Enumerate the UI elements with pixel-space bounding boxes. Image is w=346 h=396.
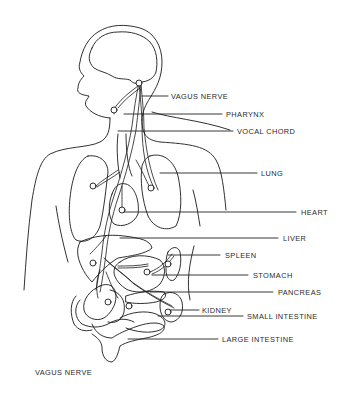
- label-heart: HEART: [301, 209, 328, 216]
- brain-outline: [89, 32, 157, 83]
- arm-inner-left: [56, 206, 68, 262]
- body-outline-right: [142, 120, 226, 210]
- colon-ascending: [71, 296, 92, 331]
- vagus-nerve-diagram: [0, 0, 346, 396]
- trachea: [117, 134, 120, 178]
- shoulder-line-right: [152, 112, 230, 130]
- label-pancreas: PANCREAS: [278, 289, 321, 296]
- label-stomach: STOMACH: [253, 272, 293, 279]
- label-lung: LUNG: [261, 170, 283, 177]
- label-large-intestine: LARGE INTESTINE: [222, 336, 294, 343]
- label-small-intestine: SMALL INTESTINE: [247, 313, 318, 320]
- heart-organ: [109, 184, 138, 226]
- kidney-organ: [160, 292, 183, 322]
- small-intestine-loop-3: [76, 300, 134, 327]
- label-kidney: KIDNEY: [202, 307, 232, 314]
- label-vocal-chord: VOCAL CHORD: [237, 128, 295, 135]
- lung-left: [69, 156, 108, 242]
- label-pharynx: PHARYNX: [226, 111, 264, 118]
- arm-inner-right: [193, 190, 200, 226]
- pancreas-organ: [126, 291, 166, 303]
- label-vagus-nerve: VAGUS NERVE: [171, 93, 228, 100]
- label-liver: LIVER: [283, 235, 306, 242]
- label-spleen: SPLEEN: [225, 252, 257, 259]
- small-intestine-loop-4: [120, 312, 165, 332]
- diagram-caption: VAGUS NERVE: [35, 368, 92, 377]
- lung-right: [141, 155, 181, 229]
- body-outline-left: [24, 118, 110, 290]
